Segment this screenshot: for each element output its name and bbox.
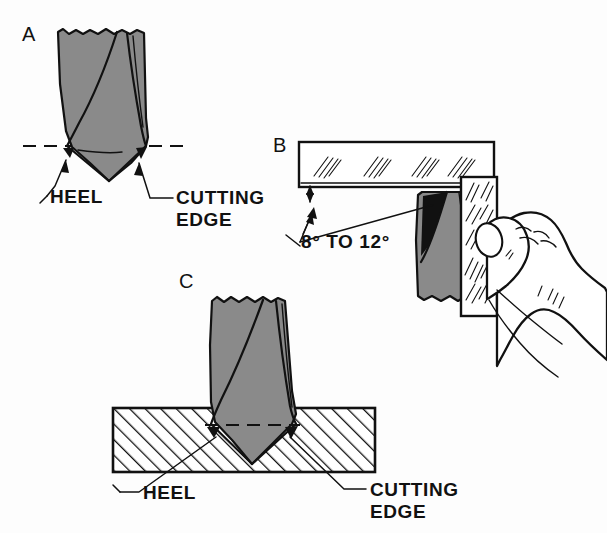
label-cutting-edge-line2-c: EDGE: [370, 501, 426, 522]
label-heel-c: HEEL: [143, 482, 196, 503]
label-cutting-edge-line2-a: EDGE: [176, 209, 232, 230]
label-cutting-edge-line1-c: CUTTING: [370, 479, 459, 500]
panel-letter-b: B: [273, 134, 286, 156]
label-cutting-edge-line1-a: CUTTING: [176, 187, 265, 208]
technical-illustration: A HEEL CUTTING EDGE B: [0, 0, 607, 533]
label-angle-b: 8° TO 12°: [301, 231, 390, 252]
figure-canvas: A HEEL CUTTING EDGE B: [0, 0, 607, 533]
panel-letter-a: A: [22, 23, 36, 45]
panel-letter-c: C: [179, 270, 193, 292]
label-heel-a: HEEL: [50, 186, 103, 207]
